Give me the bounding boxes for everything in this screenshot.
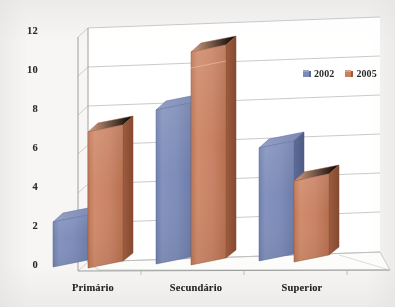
y-tick-label-6: 6	[12, 142, 38, 153]
legend-item-2002[interactable]: 2002	[303, 68, 334, 79]
legend-item-2005[interactable]: 2005	[345, 68, 376, 79]
x-tick-label-superior: Superior	[257, 282, 347, 293]
y-tick-label-4: 4	[12, 181, 38, 192]
bar-secundario-2005[interactable]	[191, 36, 236, 265]
y-tick-label-10: 10	[12, 64, 38, 75]
chart-legend: 2002 2005	[303, 68, 377, 79]
legend-label-2005: 2005	[356, 68, 376, 79]
x-tick-label-secundario: Secundário	[151, 282, 241, 293]
chart-canvas	[0, 0, 395, 307]
y-tick-label-0: 0	[12, 259, 38, 270]
cube-marker-blue-icon	[303, 70, 311, 77]
y-tick-label-8: 8	[12, 103, 38, 114]
y-tick-label-2: 2	[12, 220, 38, 231]
chart-page: 12 10 8 6 4 2 0 Primário Secundário Supe…	[0, 0, 395, 307]
cube-marker-orange-icon	[345, 70, 353, 77]
bar-superior-2005[interactable]	[294, 165, 339, 262]
x-tick-label-primario: Primário	[48, 282, 138, 293]
bar-primario-2005[interactable]	[88, 116, 133, 268]
bar-chart-3d: 12 10 8 6 4 2 0 Primário Secundário Supe…	[0, 0, 395, 307]
y-tick-label-12: 12	[12, 25, 38, 36]
legend-label-2002: 2002	[314, 68, 334, 79]
